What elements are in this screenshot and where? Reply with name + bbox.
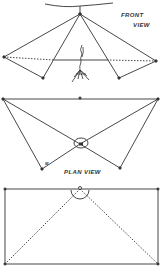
left-outer-line [4, 14, 80, 57]
plan-stake-tl [2, 98, 4, 100]
left-inner-line [43, 14, 80, 78]
plan-right-diagonal [80, 99, 158, 144]
bottom-right-dashed [80, 189, 158, 264]
ridge-pole [45, 3, 113, 7]
left-dashed-line [4, 57, 54, 60]
left-stake [3, 56, 5, 58]
plan-fire-center [80, 143, 83, 145]
plan-stake-tr [157, 98, 159, 100]
plan-left-side [3, 99, 42, 169]
plan-stake-br [119, 167, 121, 169]
right-dashed-line [107, 60, 156, 61]
right-guy-line [119, 61, 156, 78]
front-label-line2: VIEW [133, 22, 151, 28]
campfire-icon [72, 45, 89, 82]
bottom-fire-semicircle [71, 190, 89, 199]
bottom-stake-bl [4, 263, 6, 265]
left-guy-line [4, 57, 43, 78]
front-label-line1: FRONT [121, 12, 145, 18]
plan-view: M PLAN VIEW [2, 97, 159, 175]
bottom-view [4, 187, 159, 266]
bottom-left-dashed [5, 189, 80, 264]
plan-view-label: PLAN VIEW [64, 169, 102, 175]
plan-right-inner [80, 144, 120, 168]
right-inner-line [80, 14, 119, 78]
bottom-rectangle [5, 189, 158, 264]
plan-marker: M [45, 161, 49, 166]
front-view: FRONT VIEW [3, 3, 157, 82]
plan-right-side [120, 99, 158, 168]
bottom-stake-tl [4, 188, 6, 190]
bottom-stake-br [157, 263, 159, 265]
plan-left-diagonal [3, 99, 80, 144]
right-inner-stake [118, 77, 120, 79]
diagram-canvas: FRONT VIEW M PLAN VIEW [0, 0, 161, 271]
plan-stake-bl [41, 168, 43, 170]
right-stake [155, 60, 157, 62]
bottom-stake-tr [157, 188, 159, 190]
left-inner-stake [42, 77, 44, 79]
plan-center-point [79, 97, 81, 99]
